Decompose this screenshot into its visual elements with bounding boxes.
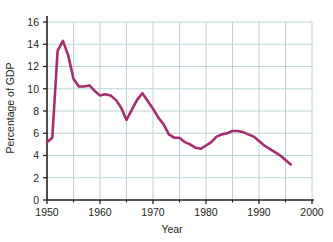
x-axis-tick-labels: 195019601970198019902000 bbox=[35, 206, 324, 218]
y-tick-label: 12 bbox=[27, 60, 39, 72]
y-tick-label: 0 bbox=[33, 194, 39, 206]
y-tick-label: 10 bbox=[27, 83, 39, 95]
y-tick-label: 14 bbox=[27, 38, 39, 50]
x-tick-label: 1970 bbox=[141, 206, 165, 218]
y-tick-label: 6 bbox=[33, 127, 39, 139]
y-tick-label: 8 bbox=[33, 105, 39, 117]
axis-ticks bbox=[43, 22, 312, 204]
x-axis-title: Year bbox=[161, 223, 183, 235]
chart-container: 195019601970198019902000 0246810121416 Y… bbox=[0, 0, 333, 242]
axis-lines bbox=[47, 16, 314, 200]
y-axis-title: Percentage of GDP bbox=[4, 62, 16, 153]
y-axis-tick-labels: 0246810121416 bbox=[27, 16, 39, 206]
data-line-series bbox=[47, 41, 291, 164]
data-line bbox=[47, 41, 291, 164]
x-tick-label: 1990 bbox=[247, 206, 271, 218]
grid-lines bbox=[47, 22, 312, 200]
line-chart: 195019601970198019902000 0246810121416 Y… bbox=[0, 0, 333, 242]
x-tick-label: 2000 bbox=[300, 206, 324, 218]
y-tick-label: 2 bbox=[33, 172, 39, 184]
y-tick-label: 4 bbox=[33, 149, 39, 161]
y-tick-label: 16 bbox=[27, 16, 39, 28]
x-tick-label: 1960 bbox=[88, 206, 112, 218]
x-tick-label: 1950 bbox=[35, 206, 59, 218]
x-tick-label: 1980 bbox=[194, 206, 218, 218]
